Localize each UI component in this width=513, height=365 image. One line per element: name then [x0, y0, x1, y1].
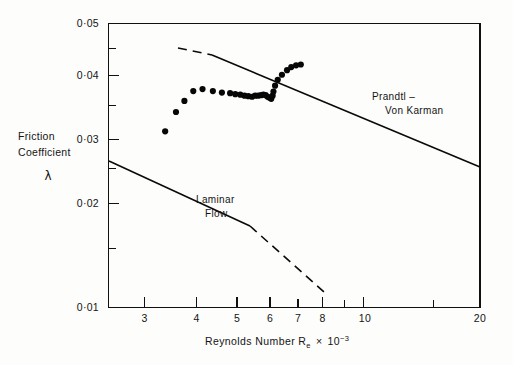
x-axis-title: Reynolds Number Re×10−3 [205, 334, 349, 350]
prandtl-label: Prandtl – Von Karman [372, 91, 444, 116]
data-point [162, 128, 168, 134]
prandtl-label-line1: Prandtl – [372, 91, 415, 102]
y-axis-title-lambda: λ [44, 169, 51, 183]
svg-text:Reynolds Number Re×10−3: Reynolds Number Re×10−3 [205, 334, 349, 350]
scatter-data-points [162, 61, 304, 134]
x-axis-title-base: 10 [327, 335, 339, 347]
laminar-label: Laminar Flow [196, 194, 235, 219]
y-axis-tick-labels: 0·05 0·04 0·03 0·02 0·01 [77, 17, 99, 313]
x-axis-title-times: × [316, 335, 323, 347]
data-point [199, 86, 205, 92]
chart-figure: 0·05 0·04 0·03 0·02 0·01 3 4 5 6 7 8 [0, 0, 513, 365]
x-axis-tick-labels: 3 4 5 6 7 8 10 20 [141, 312, 486, 324]
laminar-curve-dashed-segment [250, 226, 324, 292]
x-tick-label-8: 8 [319, 312, 325, 324]
laminar-label-line1: Laminar [196, 194, 235, 205]
x-tick-label-4: 4 [193, 312, 199, 324]
x-tick-label-7: 7 [295, 312, 301, 324]
data-point [279, 72, 285, 78]
prandtl-curve-dashed-segment [178, 48, 212, 55]
y-tick-label-0.03: 0·03 [77, 133, 99, 145]
data-point [190, 88, 196, 94]
x-tick-label-3: 3 [141, 312, 147, 324]
y-axis-title: Friction Coefficient λ [18, 130, 71, 183]
chart-canvas: 0·05 0·04 0·03 0·02 0·01 3 4 5 6 7 8 [0, 0, 513, 365]
x-axis-title-subscript: e [306, 341, 311, 350]
data-point [272, 83, 278, 89]
x-tick-label-20: 20 [474, 312, 486, 324]
data-point [270, 89, 276, 95]
y-tick-label-0.04: 0·04 [77, 69, 99, 81]
data-point [219, 90, 225, 96]
x-tick-label-10: 10 [359, 312, 371, 324]
y-axis-title-line1: Friction [18, 130, 55, 142]
y-tick-label-0.05: 0·05 [77, 17, 99, 29]
x-axis-title-exponent: −3 [340, 334, 349, 343]
y-axis-title-line2: Coefficient [18, 146, 71, 158]
data-point [210, 88, 216, 94]
x-axis-ticks [145, 297, 481, 307]
x-tick-label-5: 5 [234, 312, 240, 324]
data-point [227, 90, 233, 96]
data-point [181, 98, 187, 104]
y-tick-label-0.01: 0·01 [77, 301, 99, 313]
x-axis-title-main: Reynolds Number R [205, 335, 306, 347]
x-tick-label-6: 6 [267, 312, 273, 324]
y-tick-label-0.02: 0·02 [77, 197, 99, 209]
laminar-label-line2: Flow [205, 208, 228, 219]
laminar-flow-curve [109, 161, 324, 292]
data-point [298, 61, 304, 67]
data-point [173, 109, 179, 115]
data-point [275, 77, 281, 83]
prandtl-label-line2: Von Karman [385, 105, 444, 116]
